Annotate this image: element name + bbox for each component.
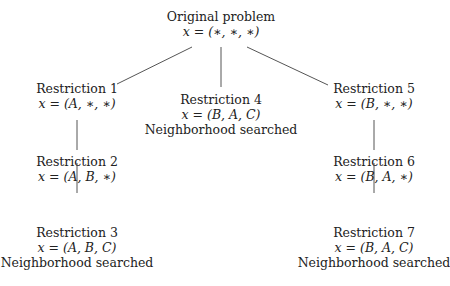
node-title: Restriction 6	[333, 154, 415, 169]
node-title: Original problem	[167, 9, 275, 24]
node-restriction-5: Restriction 5 x = (B, ∗, ∗)	[333, 81, 415, 111]
node-assignment: x = (∗, ∗, ∗)	[167, 24, 275, 39]
node-assignment: x = (A, B, ∗)	[36, 169, 118, 184]
node-title: Restriction 2	[36, 154, 118, 169]
node-restriction-3: Restriction 3 x = (A, B, C) Neighborhood…	[1, 225, 154, 270]
node-assignment: x = (B, A, C)	[145, 107, 298, 122]
node-restriction-4: Restriction 4 x = (B, A, C) Neighborhood…	[145, 92, 298, 137]
node-assignment: x = (B, ∗, ∗)	[333, 96, 415, 111]
node-assignment: x = (A, ∗, ∗)	[36, 96, 118, 111]
node-title: Restriction 7	[298, 225, 450, 240]
node-restriction-1: Restriction 1 x = (A, ∗, ∗)	[36, 81, 118, 111]
node-status: Neighborhood searched	[1, 255, 154, 270]
node-status: Neighborhood searched	[145, 122, 298, 137]
node-assignment: x = (B, A, ∗)	[333, 169, 415, 184]
node-assignment: x = (B, A, C)	[298, 240, 450, 255]
node-title: Restriction 3	[1, 225, 154, 240]
node-status: Neighborhood searched	[298, 255, 450, 270]
node-assignment: x = (A, B, C)	[1, 240, 154, 255]
node-restriction-6: Restriction 6 x = (B, A, ∗)	[333, 154, 415, 184]
node-title: Restriction 4	[145, 92, 298, 107]
node-restriction-2: Restriction 2 x = (A, B, ∗)	[36, 154, 118, 184]
node-original-problem: Original problem x = (∗, ∗, ∗)	[167, 9, 275, 39]
edge-root-r1	[117, 47, 192, 84]
edge-root-r5	[247, 47, 328, 85]
node-title: Restriction 5	[333, 81, 415, 96]
node-restriction-7: Restriction 7 x = (B, A, C) Neighborhood…	[298, 225, 450, 270]
node-title: Restriction 1	[36, 81, 118, 96]
